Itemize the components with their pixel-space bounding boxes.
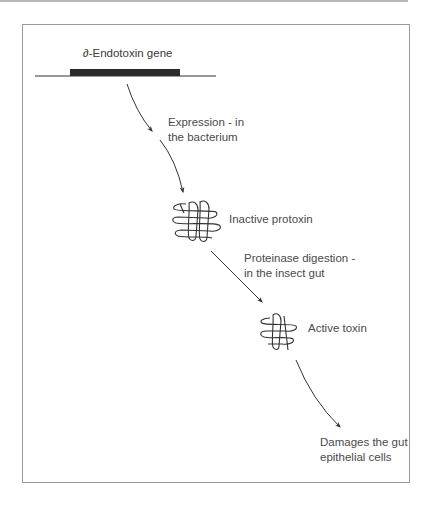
state-label-toxin: Active toxin (308, 321, 367, 336)
gene-label: ∂-Endotoxin gene (83, 46, 172, 61)
step-label-damage: Damages the gut epithelial cells (320, 435, 408, 465)
tangled-protein-icon-small (261, 314, 297, 350)
arrow-expression-1 (127, 84, 152, 131)
state-label-protoxin: Inactive protoxin (229, 212, 313, 227)
arrow-damage (296, 360, 340, 427)
step-label-expression: Expression - in the bacterium (168, 115, 244, 145)
step-label-line: in the insect gut (244, 266, 355, 281)
gene-graphic (35, 69, 216, 76)
step-label-line: Damages the gut (320, 435, 408, 450)
arrow-expression-2 (160, 140, 183, 192)
step-label-line: Proteinase digestion - (244, 251, 355, 266)
step-label-proteinase: Proteinase digestion - in the insect gut (244, 251, 355, 281)
tangled-protein-icon-large (173, 201, 221, 241)
step-label-line: epithelial cells (320, 450, 408, 465)
step-label-line: Expression - in (168, 115, 244, 130)
step-label-line: the bacterium (168, 130, 244, 145)
pathway-diagram (0, 0, 433, 505)
gene-bar (70, 69, 180, 76)
